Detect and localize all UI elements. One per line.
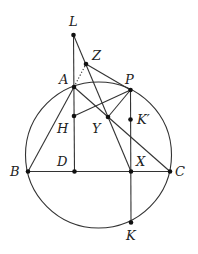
label-y: Y	[92, 121, 102, 136]
segment-l-d	[74, 35, 75, 172]
segment-z-p	[86, 64, 131, 90]
point-b	[26, 169, 31, 174]
point-labels: LZAPHYK′BDXCK	[9, 14, 185, 243]
point-l	[71, 33, 76, 38]
point-d	[72, 169, 77, 174]
point-a	[72, 85, 77, 90]
label-x: X	[135, 154, 146, 169]
point-p	[128, 88, 133, 93]
point-k	[129, 220, 134, 225]
label-d: D	[56, 154, 68, 169]
label-z: Z	[91, 48, 102, 63]
label-kp: K′	[136, 112, 150, 127]
label-h: H	[56, 121, 69, 136]
circumcircle	[26, 82, 172, 228]
segment-p-k	[131, 90, 132, 223]
point-y	[106, 115, 111, 120]
point-h	[72, 114, 77, 119]
geometry-diagram: LZAPHYK′BDXCK	[0, 0, 198, 254]
label-p: P	[124, 72, 134, 87]
label-k: K	[125, 228, 137, 243]
point-kp	[128, 117, 133, 122]
segment-p-y	[108, 90, 131, 117]
label-l: L	[68, 14, 78, 29]
point-z	[84, 62, 89, 67]
point-c	[168, 169, 173, 174]
label-a: A	[58, 72, 68, 87]
label-b: B	[9, 164, 20, 179]
label-c: C	[175, 164, 185, 179]
point-x	[129, 169, 134, 174]
